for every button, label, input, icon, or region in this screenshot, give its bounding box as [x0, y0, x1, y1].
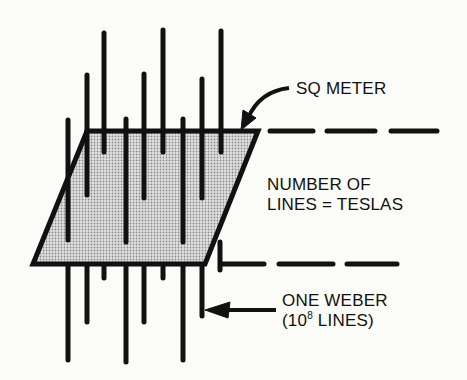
density-label-line1: NUMBER OF	[267, 175, 371, 194]
sq-meter-label: SQ METER	[296, 79, 386, 98]
weber-suffix: LINES)	[313, 311, 374, 330]
weber-label-line2: (108 LINES)	[282, 311, 374, 330]
flux-diagram	[0, 0, 467, 380]
density-label-line2: LINES = TESLAS	[267, 195, 403, 214]
weber-prefix: (10	[282, 311, 307, 330]
flux-lines-below	[68, 266, 202, 362]
sq-meter-arrow	[241, 88, 289, 130]
weber-label-line1: ONE WEBER	[282, 291, 388, 310]
one-weber-arrow	[205, 302, 276, 318]
